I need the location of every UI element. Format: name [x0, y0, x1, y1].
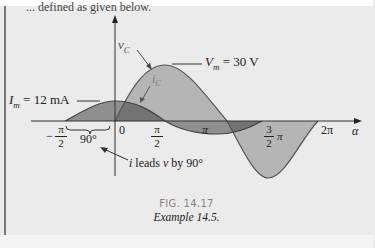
tick-zero: 0 [119, 123, 125, 138]
x-axis-label: α [352, 124, 358, 139]
vc-label: vC [118, 37, 130, 55]
im-annotation: Im = 12 mA [9, 92, 69, 110]
ic-label: iC [152, 72, 161, 88]
vc-pointer-line [137, 50, 150, 67]
tick-three-half-pi-suffix: π [277, 130, 283, 142]
figure-caption: Example 14.5. [0, 211, 373, 223]
vm-annotation: Vm = 30 V [205, 54, 259, 72]
top-cutoff-text: ... defined as given below. [26, 0, 151, 15]
phase-span-label: 90° [80, 132, 97, 147]
figure-number: FIG. 14.17 [0, 198, 373, 209]
lead-note-pointer [106, 150, 128, 160]
tick-neg-half-pi: π2 [55, 124, 67, 149]
tick-three-half-pi: 32 [264, 124, 274, 149]
tick-half-pi: π2 [151, 124, 163, 149]
lead-note: i leads v by 90° [129, 156, 203, 171]
tick-pi: π [202, 123, 208, 138]
tick-neg-half-pi-sign: − [46, 129, 53, 144]
vc-pointer-arrow-icon [146, 63, 152, 70]
y-axis-arrow-icon [112, 15, 118, 23]
tick-two-pi: 2π [321, 123, 333, 138]
